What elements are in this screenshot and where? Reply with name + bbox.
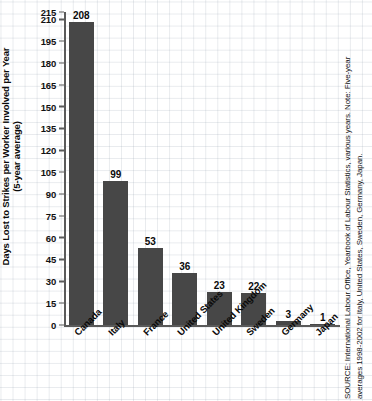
bar-rect — [103, 181, 128, 325]
y-axis-tick-label: 75 — [34, 210, 56, 221]
bar-value-label: 208 — [73, 10, 90, 21]
y-axis-tick: 75 — [34, 210, 64, 221]
plot-area: 0153045607590105120135150165180195210215… — [64, 12, 340, 325]
y-axis-tick: 195 — [34, 36, 64, 47]
bar-value-label: 53 — [145, 236, 156, 247]
y-axis-tick: 165 — [34, 79, 64, 90]
y-axis-tick: 215 — [34, 7, 64, 18]
y-axis-tick-label: 150 — [34, 101, 56, 112]
y-axis-title: Days Lost to Strikes per Worker Involved… — [0, 0, 24, 313]
y-axis-tick: 60 — [34, 232, 64, 243]
bar-value-label: 36 — [179, 261, 190, 272]
bar[interactable]: 22 — [241, 12, 266, 325]
y-axis-tick: 15 — [34, 298, 64, 309]
y-axis-tick: 120 — [34, 145, 64, 156]
y-axis-tick: 30 — [34, 276, 64, 287]
chart-figure: Days Lost to Strikes per Worker Involved… — [0, 0, 372, 401]
y-axis-tick-label: 195 — [34, 36, 56, 47]
y-axis-tick: 0 — [34, 320, 64, 331]
y-axis-tick: 135 — [34, 123, 64, 134]
bar[interactable]: 3 — [276, 12, 301, 325]
y-axis-tick-label: 165 — [34, 79, 56, 90]
y-axis-title-line1: Days Lost to Strikes per Worker Involved… — [0, 48, 11, 266]
bar[interactable]: 36 — [172, 12, 197, 325]
y-axis-tick-label: 30 — [34, 276, 56, 287]
y-axis-tick-label: 0 — [34, 320, 56, 331]
y-axis-title-text: Days Lost to Strikes per Worker Involved… — [0, 48, 23, 266]
y-axis-tick-label: 15 — [34, 298, 56, 309]
bar-series: 208995336232231 — [64, 12, 340, 325]
y-axis-tick-label: 215 — [34, 7, 56, 18]
bar[interactable]: 99 — [103, 12, 128, 325]
bar[interactable]: 208 — [69, 12, 94, 325]
y-axis-tick-label: 60 — [34, 232, 56, 243]
source-note-line2: averages 1998-2002 for Italy, United Sta… — [355, 154, 364, 400]
y-axis-tick-label: 180 — [34, 57, 56, 68]
y-axis-tick-label: 120 — [34, 145, 56, 156]
bar[interactable]: 53 — [138, 12, 163, 325]
y-axis-title-line2: (5-year average) — [11, 121, 22, 191]
y-axis-tick: 150 — [34, 101, 64, 112]
y-axis-tick-label: 45 — [34, 254, 56, 265]
y-axis-tick: 45 — [34, 254, 64, 265]
y-axis-tick: 90 — [34, 188, 64, 199]
y-axis-tick-label: 135 — [34, 123, 56, 134]
bar[interactable]: 1 — [310, 12, 335, 325]
bar-value-label: 99 — [110, 169, 121, 180]
source-note-line1: SOURCE: International Labour Office, Yea… — [343, 57, 352, 399]
bar[interactable]: 23 — [207, 12, 232, 325]
y-axis-tick: 180 — [34, 57, 64, 68]
y-axis-tick-label: 90 — [34, 188, 56, 199]
y-axis-tick: 105 — [34, 167, 64, 178]
y-axis-tick-label: 105 — [34, 167, 56, 178]
bar-rect — [69, 22, 94, 325]
